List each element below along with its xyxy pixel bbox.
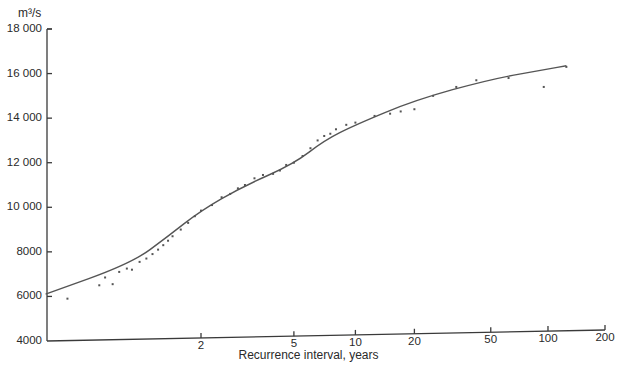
data-point: [262, 174, 264, 176]
data-point: [118, 271, 120, 273]
chart-canvas: [0, 0, 617, 368]
y-tick-label: 8000: [0, 245, 42, 257]
data-point: [167, 240, 169, 242]
data-point: [66, 298, 68, 300]
x-tick-label: 50: [476, 333, 506, 345]
data-point: [475, 79, 477, 81]
data-point: [237, 187, 239, 189]
axes: [47, 29, 605, 341]
y-tick-label: 10 000: [0, 200, 42, 212]
data-point: [455, 86, 457, 88]
y-tick-label: 18 000: [0, 22, 42, 34]
fitted-curve: [46, 66, 567, 294]
data-point: [335, 128, 337, 130]
data-point: [151, 253, 153, 255]
data-point: [180, 229, 182, 231]
data-point: [272, 173, 274, 175]
y-tick-label: 14 000: [0, 111, 42, 123]
data-point: [354, 122, 356, 124]
data-point: [112, 283, 114, 285]
data-points: [0, 66, 567, 315]
data-point: [389, 113, 391, 115]
data-point: [285, 164, 287, 166]
x-tick-label: 20: [399, 335, 429, 347]
data-point: [400, 110, 402, 112]
data-point: [200, 210, 202, 212]
data-point: [302, 155, 304, 157]
y-tick-label: 16 000: [0, 67, 42, 79]
data-point: [104, 276, 106, 278]
data-point: [565, 66, 567, 68]
data-point: [309, 147, 311, 149]
data-point: [329, 133, 331, 135]
data-point: [543, 86, 545, 88]
data-point: [508, 77, 510, 79]
data-point: [187, 222, 189, 224]
data-point: [194, 215, 196, 217]
y-tick-label: 12 000: [0, 156, 42, 168]
data-point: [131, 269, 133, 271]
data-point: [432, 95, 434, 97]
data-point: [345, 124, 347, 126]
data-point: [98, 284, 100, 286]
data-point: [244, 184, 246, 186]
x-tick-label: 10: [340, 336, 370, 348]
data-point: [145, 258, 147, 260]
x-tick-label: 200: [590, 331, 617, 343]
data-point: [323, 135, 325, 137]
data-point: [172, 235, 174, 237]
data-point: [293, 162, 295, 164]
data-point: [413, 108, 415, 110]
data-point: [221, 196, 223, 198]
data-point: [211, 204, 213, 206]
y-tick-label: 6000: [0, 289, 42, 301]
y-tick-label: 4000: [0, 334, 42, 346]
x-axis-label: Recurrence interval, years: [0, 348, 617, 362]
data-point: [317, 139, 319, 141]
data-point: [229, 193, 231, 195]
data-point: [139, 261, 141, 263]
y-axis-unit-label: m³/s: [18, 6, 41, 20]
x-tick-label: 100: [533, 332, 563, 344]
data-point: [162, 244, 164, 246]
data-point: [126, 268, 128, 270]
data-point: [374, 115, 376, 117]
data-point: [279, 170, 281, 172]
data-point: [253, 177, 255, 179]
data-point: [157, 249, 159, 251]
